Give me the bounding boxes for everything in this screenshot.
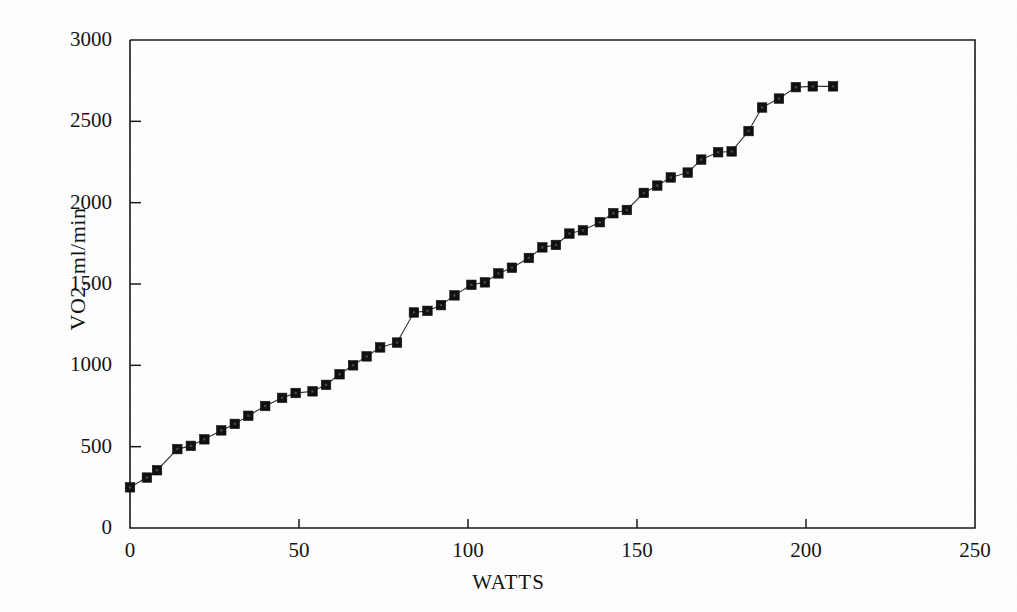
- series-markers-vo2: [125, 82, 838, 492]
- plot-area: [0, 0, 1017, 612]
- chart-figure: VO2, ml/min 050010001500200025003000 050…: [0, 0, 1017, 612]
- axis-frame: [130, 40, 975, 528]
- axis-ticks: [130, 121, 806, 528]
